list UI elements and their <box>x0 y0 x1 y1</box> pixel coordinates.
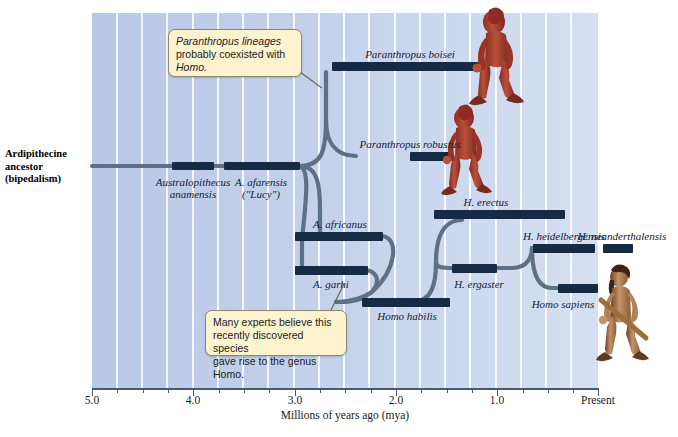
callout-paranthropus-note: Paranthropus lineages probably coexisted… <box>168 29 302 77</box>
axis-tick <box>345 388 346 393</box>
axis-tick <box>117 388 118 393</box>
axis-tick-label: 5.0 <box>62 394 122 406</box>
bar-h-neanderthalensis <box>603 244 633 253</box>
axis-tick <box>244 388 245 393</box>
axis-tick-label: 3.0 <box>265 394 325 406</box>
species-label-homo-sapiens: Homo sapiens <box>508 298 618 310</box>
hominin-phylogeny-figure: Ardipithecine ancestor (bipedalism) Aust… <box>0 0 678 437</box>
axis-tick <box>219 388 220 393</box>
bar-a-africanus <box>295 232 383 241</box>
species-label-homo-habilis: Homo habilis <box>360 310 454 322</box>
species-label-h-neanderthalensis: H. neanderthalensis <box>566 230 678 242</box>
branch-habilis-to-ergaster <box>436 262 452 268</box>
bar-h-heidelbergensis <box>533 244 595 253</box>
bar-h-ergaster <box>452 264 497 273</box>
axis-tick-label: 4.0 <box>163 394 223 406</box>
species-label-paranthropus-boisei: Paranthropus boisei <box>345 48 475 60</box>
bar-h-erectus <box>434 210 565 219</box>
axis-tick <box>472 388 473 393</box>
species-label-a-garhi: A. garhi <box>292 278 370 290</box>
species-label-paranthropus-robustus: Paranthropus robustus <box>345 138 475 150</box>
axis-tick <box>523 388 524 393</box>
bar-a-afarensis <box>224 162 300 170</box>
leader-paranthropus <box>300 72 322 88</box>
branch-to-paranthropus <box>300 72 326 166</box>
axis-tick-label: 2.0 <box>366 394 426 406</box>
species-label-h-erectus: H. erectus <box>440 196 532 208</box>
axis-tick <box>548 388 549 393</box>
species-label-h-ergaster: H. ergaster <box>440 278 518 290</box>
bar-homo-sapiens <box>558 284 598 293</box>
axis-tick <box>168 388 169 393</box>
paranthropus-boisei-figure <box>469 7 524 105</box>
bar-homo-habilis <box>362 298 450 307</box>
bar-paranthropus-boisei <box>332 62 487 71</box>
callout-garhi-note: Many experts believe this recently disco… <box>205 310 347 356</box>
axis-tick <box>320 388 321 393</box>
root-label: Ardipithecine ancestor (bipedalism) <box>5 148 91 186</box>
axis-tick-label: Present <box>568 394 628 406</box>
species-label-a-africanus: A. africanus <box>294 218 386 230</box>
axis-tick-label: 1.0 <box>467 394 527 406</box>
axis-tick <box>143 388 144 393</box>
branch-ergaster-to-sapiens <box>532 248 562 288</box>
axis-tick <box>269 388 270 393</box>
bar-australopithecus-anamensis <box>172 162 214 170</box>
homo-sapiens-figure <box>596 265 649 362</box>
x-axis-title: Millions of years ago (mya) <box>92 409 598 421</box>
axis-tick <box>447 388 448 393</box>
axis-tick <box>421 388 422 393</box>
axis-tick <box>371 388 372 393</box>
axis-tick <box>573 388 574 393</box>
species-label-a-afarensis: A. afarensis ("Lucy") <box>213 176 309 200</box>
branch-ergaster-to-heidelbergensis <box>496 248 532 268</box>
bar-a-garhi <box>295 266 368 275</box>
